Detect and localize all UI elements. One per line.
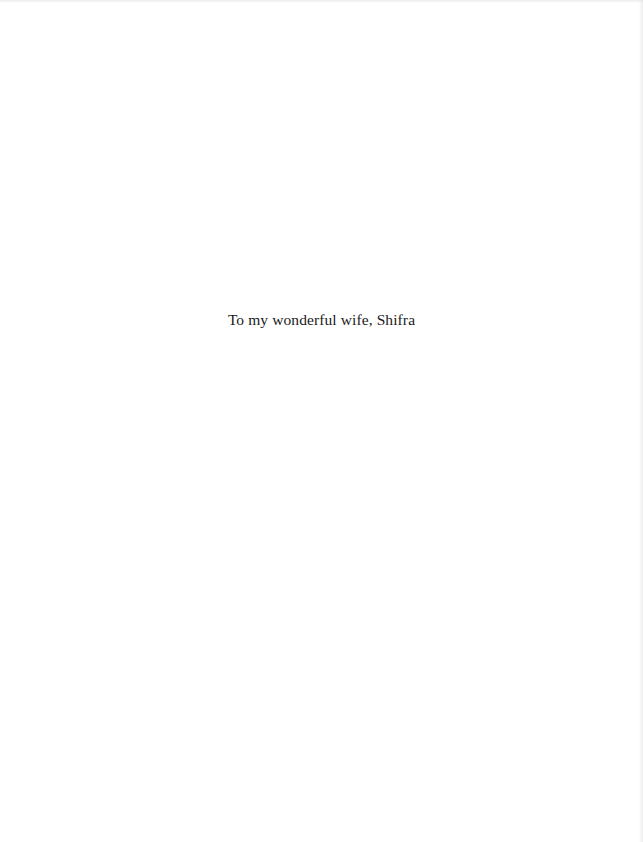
document-page: To my wonderful wife, Shifra xyxy=(0,0,643,842)
scan-edge-top xyxy=(0,0,643,3)
dedication-text: To my wonderful wife, Shifra xyxy=(0,311,643,329)
scan-edge-right xyxy=(639,0,643,842)
